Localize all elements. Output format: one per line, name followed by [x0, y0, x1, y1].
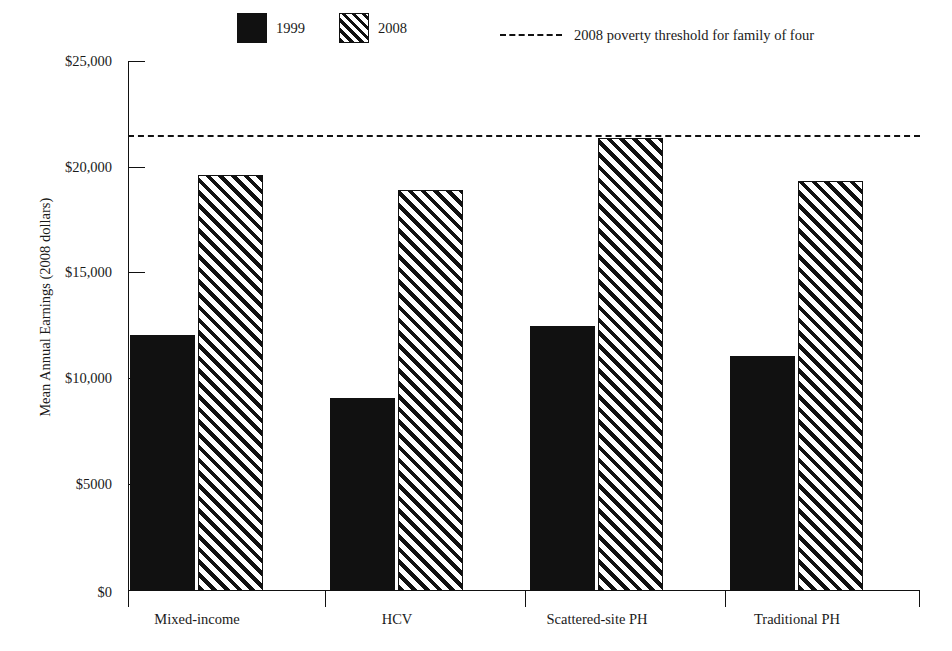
y-tick-15000 — [128, 272, 145, 273]
x-tick-label-hcv: HCV — [326, 612, 468, 627]
legend-item-1999: 1999 — [237, 13, 305, 43]
legend-item-poverty-threshold: 2008 poverty threshold for family of fou… — [500, 20, 814, 50]
y-tick-25000 — [128, 61, 145, 62]
y-tick-label-20000: $20,000 — [65, 160, 112, 175]
legend-label-1999: 1999 — [276, 21, 305, 36]
legend-label-poverty-threshold: 2008 poverty threshold for family of fou… — [574, 28, 814, 43]
bar-1999-hcv — [330, 398, 395, 591]
bar-2008-traditional-ph — [798, 181, 863, 591]
x-tick-separator-1 — [325, 590, 326, 607]
x-tick-right-edge — [919, 590, 920, 607]
bar-2008-hcv — [398, 190, 463, 591]
bar-1999-scattered-site-ph — [530, 326, 595, 591]
y-tick-label-0: $0 — [98, 585, 113, 600]
y-tick-label-15000: $15,000 — [65, 265, 112, 280]
bar-2008-mixed-income — [198, 175, 263, 591]
solid-black-swatch-icon — [237, 13, 267, 43]
bar-1999-traditional-ph — [730, 356, 795, 591]
poverty-threshold-line — [128, 135, 920, 137]
y-tick-20000 — [128, 167, 145, 168]
bar-1999-mixed-income — [130, 335, 195, 591]
y-axis-line — [128, 61, 129, 591]
x-tick-left-edge — [128, 590, 129, 607]
y-tick-label-5000: $5000 — [76, 477, 112, 492]
dashed-line-icon — [500, 34, 562, 36]
x-tick-label-traditional-ph: Traditional PH — [726, 612, 868, 627]
y-axis-title: Mean Annual Earnings (2008 dollars) — [38, 107, 53, 507]
x-tick-label-mixed-income: Mixed-income — [126, 612, 268, 627]
y-tick-label-25000: $25,000 — [65, 54, 112, 69]
y-tick-label-10000: $10,000 — [65, 371, 112, 386]
bar-2008-scattered-site-ph — [598, 138, 663, 591]
chart-legend: 1999 2008 2008 poverty threshold for fam… — [0, 0, 952, 60]
x-tick-separator-2 — [525, 590, 526, 607]
x-tick-label-scattered-site-ph: Scattered-site PH — [526, 612, 668, 627]
x-tick-separator-3 — [725, 590, 726, 607]
legend-item-2008: 2008 — [339, 13, 407, 43]
legend-label-2008: 2008 — [378, 21, 407, 36]
diagonal-hatch-swatch-icon — [339, 13, 369, 43]
bar-chart: 1999 2008 2008 poverty threshold for fam… — [0, 0, 952, 651]
